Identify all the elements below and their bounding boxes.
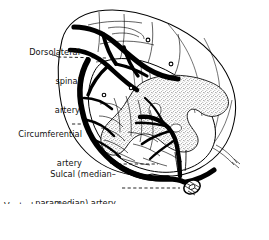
label-line: Dorsolateral <box>8 48 80 58</box>
label-line: Ventral spinal artery <box>4 202 120 204</box>
label-ventral-spinal-artery: Ventral spinal artery <box>4 183 120 204</box>
ventral-rootlet <box>213 145 240 168</box>
label-line: Sulcal (median– <box>4 170 116 180</box>
label-line: spinal <box>8 77 80 87</box>
label-line: Circumferential <box>4 130 82 140</box>
